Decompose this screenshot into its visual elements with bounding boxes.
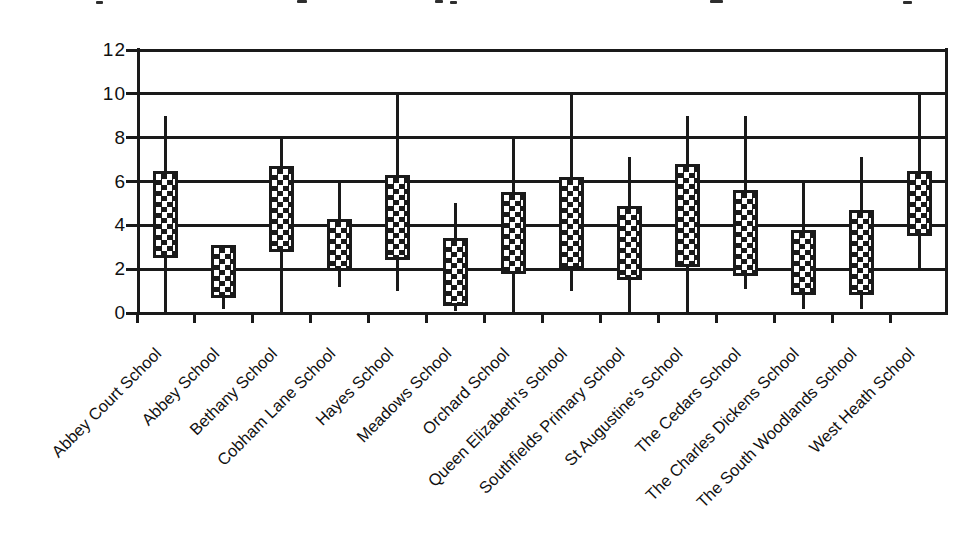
y-axis-tick-label: 8 xyxy=(60,127,126,149)
y-axis-tick-label: 0 xyxy=(60,302,126,324)
y-axis-tick xyxy=(126,92,137,95)
y-axis-tick-label: 6 xyxy=(60,171,126,193)
x-axis-tick xyxy=(136,314,139,323)
y-axis-tick xyxy=(126,268,137,271)
x-axis-category-label: The Cedars School xyxy=(631,344,744,457)
box-plot-box xyxy=(269,166,294,251)
gridline xyxy=(137,224,948,227)
x-axis-tick xyxy=(541,314,544,323)
x-axis-tick xyxy=(367,314,370,323)
x-axis-tick xyxy=(773,314,776,323)
x-axis-tick xyxy=(483,314,486,323)
box-plot-box xyxy=(617,206,642,281)
box-plot-box xyxy=(501,192,526,273)
x-axis-tick xyxy=(193,314,196,323)
box-whisker-chart: 024681012 Abbey Court SchoolAbbey School… xyxy=(0,0,977,549)
x-axis-category-label: Abbey Court School xyxy=(48,344,165,461)
box-plot-box xyxy=(327,219,352,272)
x-axis-tick xyxy=(251,314,254,323)
x-axis-tick xyxy=(309,314,312,323)
box-plot-box xyxy=(153,171,178,259)
x-axis-category-label: West Heath School xyxy=(805,344,917,456)
x-axis-tick xyxy=(657,314,660,323)
y-axis-tick-label: 12 xyxy=(60,39,126,61)
y-axis-tick xyxy=(126,180,137,183)
gridline xyxy=(137,136,948,139)
gridline xyxy=(137,92,948,95)
y-axis-tick xyxy=(126,224,137,227)
box-plot-box xyxy=(733,190,758,275)
gridline xyxy=(137,180,948,183)
box-plot-box xyxy=(791,230,816,296)
box-plot-box xyxy=(849,210,874,295)
x-axis-tick xyxy=(889,314,892,323)
box-plot-box xyxy=(211,245,236,298)
x-axis-tick xyxy=(715,314,718,323)
y-axis-tick-label: 4 xyxy=(60,214,126,236)
box-plot-box xyxy=(675,164,700,267)
x-axis-tick xyxy=(599,314,602,323)
x-axis-tick xyxy=(831,314,834,323)
gridline xyxy=(137,49,948,52)
y-axis-tick xyxy=(126,49,137,52)
box-plot-box xyxy=(907,171,932,237)
gridline xyxy=(137,268,948,271)
box-plot-box xyxy=(443,238,468,306)
box-plot-box xyxy=(559,177,584,269)
chart-page: 024681012 Abbey Court SchoolAbbey School… xyxy=(0,0,977,549)
y-axis-tick-label: 2 xyxy=(60,258,126,280)
x-axis-tick xyxy=(425,314,428,323)
y-axis-tick xyxy=(126,136,137,139)
y-axis-tick-label: 10 xyxy=(60,83,126,105)
box-plot-box xyxy=(385,175,410,260)
